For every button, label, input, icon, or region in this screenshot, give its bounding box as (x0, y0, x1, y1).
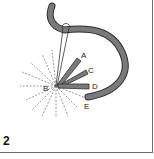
step-number: 2 (3, 134, 10, 148)
label-b: B (43, 84, 48, 93)
label-e: E (84, 102, 89, 111)
label-c: C (88, 66, 94, 75)
instruction-diagram: A B C D E (0, 0, 154, 159)
label-a: A (81, 51, 87, 60)
segment-d (58, 84, 89, 89)
label-d: D (92, 82, 98, 91)
